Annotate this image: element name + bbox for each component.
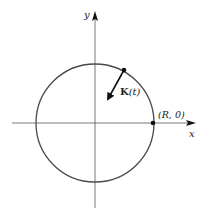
r0-point-dot <box>151 121 156 126</box>
r0-point-label: (R, 0) <box>158 109 185 120</box>
y-axis-label: y <box>83 9 90 20</box>
x-axis-label: x <box>189 128 195 139</box>
k-vector-label-arg: (t) <box>129 86 141 97</box>
k-vector-label: K(t) <box>120 86 141 97</box>
diagram-canvas: y x K(t) (R, 0) <box>0 0 210 220</box>
k-vector-label-bold: K <box>120 86 129 97</box>
k-point-dot <box>122 68 127 73</box>
